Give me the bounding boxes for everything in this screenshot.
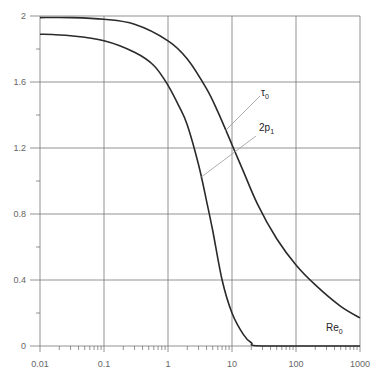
p1-label: 2p1 — [259, 122, 274, 135]
x-axis-ticks: 0.010.11101001000 — [31, 346, 370, 369]
y-tick-label: 2 — [21, 11, 26, 21]
y-tick-label: 0 — [21, 341, 26, 351]
x-tick-label: 1000 — [350, 359, 370, 369]
re0-label: Re0 — [326, 322, 343, 335]
y-tick-label: 1.2 — [13, 143, 26, 153]
y-tick-label: 1.6 — [13, 77, 26, 87]
y-tick-label: 0.8 — [13, 209, 26, 219]
grid-lines — [30, 16, 360, 352]
chart: 0.010.11101001000 00.40.81.21.62 τ0 2p1 … — [0, 0, 376, 388]
x-tick-label: 100 — [288, 359, 303, 369]
x-tick-label: 0.01 — [31, 359, 49, 369]
y-axis-ticks: 00.40.81.21.62 — [13, 11, 40, 351]
p1-leader-line — [200, 136, 256, 178]
tau0-label: τ0 — [261, 87, 269, 100]
2p1-curve — [40, 34, 360, 346]
x-tick-label: 0.1 — [98, 359, 111, 369]
x-tick-label: 10 — [227, 359, 237, 369]
y-tick-label: 0.4 — [13, 275, 26, 285]
x-tick-label: 1 — [165, 359, 170, 369]
tau0-leader-line — [225, 96, 260, 131]
curves — [40, 18, 360, 346]
